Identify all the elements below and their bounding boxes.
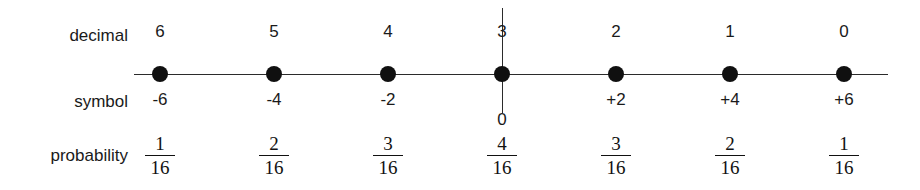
- decimal-value: 6: [115, 22, 205, 42]
- fraction-denominator: 16: [151, 157, 170, 177]
- fraction-numerator: 1: [155, 134, 165, 154]
- fraction-bar: [829, 155, 859, 156]
- number-line-dot: [494, 66, 510, 82]
- point-column: 1+4216: [685, 0, 775, 190]
- symbol-value: -2: [343, 90, 433, 110]
- number-line-dot: [152, 66, 168, 82]
- probability-fraction: 116: [799, 134, 889, 177]
- number-line-dot: [380, 66, 396, 82]
- symbol-value: -6: [115, 90, 205, 110]
- number-line-diagram: decimal symbol probability 6-61165-42164…: [0, 0, 920, 190]
- probability-fraction: 416: [457, 134, 547, 177]
- fraction-numerator: 3: [383, 134, 393, 154]
- symbol-value: -4: [229, 90, 319, 110]
- decimal-value: 0: [799, 22, 889, 42]
- symbol-value: +2: [571, 90, 661, 110]
- fraction-bar: [259, 155, 289, 156]
- probability-fraction: 116: [115, 134, 205, 177]
- decimal-value: 5: [229, 22, 319, 42]
- fraction-numerator: 4: [497, 134, 507, 154]
- fraction-denominator: 16: [835, 157, 854, 177]
- probability-fraction: 216: [685, 134, 775, 177]
- symbol-value: 0: [457, 110, 547, 130]
- point-column: 30416: [457, 0, 547, 190]
- fraction-numerator: 3: [611, 134, 621, 154]
- fraction-denominator: 16: [721, 157, 740, 177]
- decimal-value: 2: [571, 22, 661, 42]
- decimal-value: 4: [343, 22, 433, 42]
- number-line-dot: [836, 66, 852, 82]
- decimal-value: 1: [685, 22, 775, 42]
- decimal-value: 3: [457, 22, 547, 42]
- probability-fraction: 316: [343, 134, 433, 177]
- point-column: 5-4216: [229, 0, 319, 190]
- number-line-dot: [266, 66, 282, 82]
- fraction-bar: [601, 155, 631, 156]
- fraction-denominator: 16: [607, 157, 626, 177]
- number-line-dot: [722, 66, 738, 82]
- fraction-numerator: 2: [725, 134, 735, 154]
- fraction-numerator: 2: [269, 134, 279, 154]
- point-column: 0+6116: [799, 0, 889, 190]
- point-column: 2+2316: [571, 0, 661, 190]
- symbol-value: +4: [685, 90, 775, 110]
- probability-fraction: 216: [229, 134, 319, 177]
- point-column: 4-2316: [343, 0, 433, 190]
- fraction-numerator: 1: [839, 134, 849, 154]
- fraction-denominator: 16: [379, 157, 398, 177]
- row-label-symbol: symbol: [8, 92, 128, 112]
- symbol-value: +6: [799, 90, 889, 110]
- fraction-denominator: 16: [493, 157, 512, 177]
- fraction-bar: [715, 155, 745, 156]
- fraction-denominator: 16: [265, 157, 284, 177]
- point-column: 6-6116: [115, 0, 205, 190]
- fraction-bar: [487, 155, 517, 156]
- row-label-decimal: decimal: [8, 26, 128, 46]
- row-label-probability: probability: [8, 146, 128, 166]
- fraction-bar: [373, 155, 403, 156]
- probability-fraction: 316: [571, 134, 661, 177]
- number-line-dot: [608, 66, 624, 82]
- fraction-bar: [145, 155, 175, 156]
